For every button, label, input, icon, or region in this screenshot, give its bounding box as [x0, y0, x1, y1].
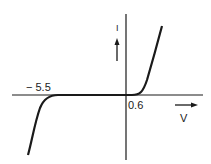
- reverse-breakdown-curve: [28, 95, 58, 155]
- voltage-arrow-icon: [175, 103, 198, 108]
- current-arrow-icon: [115, 38, 120, 61]
- reverse-breakdown-label: − 5.5: [26, 82, 51, 93]
- forward-threshold-label: 0.6: [128, 100, 143, 111]
- current-axis-label: I: [116, 24, 119, 33]
- forward-conduction-curve: [132, 26, 162, 95]
- voltage-axis-label: V: [180, 113, 187, 124]
